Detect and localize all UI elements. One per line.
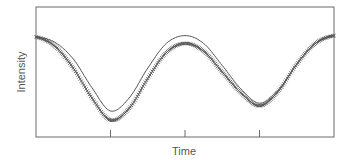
plot-frame <box>36 7 334 137</box>
y-axis-label: Intensity <box>15 51 27 92</box>
x-axis-ticks <box>111 130 260 137</box>
model-series-line <box>36 36 334 112</box>
x-axis-label: Time <box>172 145 196 157</box>
intensity-time-chart: Time Intensity <box>0 0 352 160</box>
data-series-crosses <box>34 34 335 122</box>
